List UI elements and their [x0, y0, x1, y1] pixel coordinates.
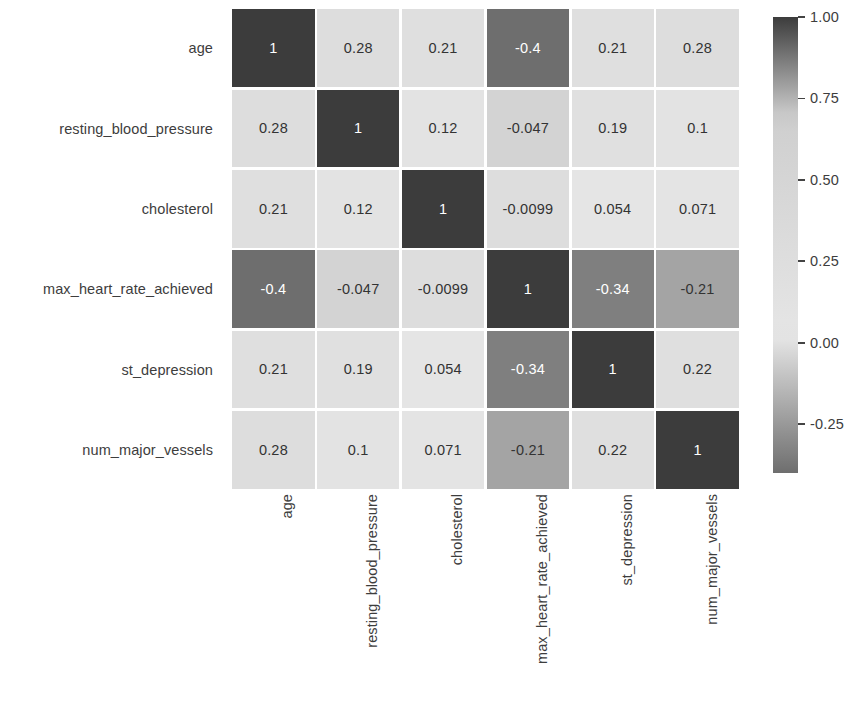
heatmap-cell: -0.4 — [487, 9, 569, 87]
heatmap-cell-value: 1 — [609, 362, 617, 377]
heatmap-cell: -0.0099 — [487, 170, 569, 248]
heatmap-cell-value: 0.21 — [259, 362, 288, 377]
colorbar-tick-label: 0.25 — [810, 253, 839, 269]
x-axis-tick-label: st_depression — [619, 494, 635, 586]
heatmap-cell: 0.19 — [572, 90, 654, 168]
heatmap-cell: 0.071 — [656, 170, 738, 248]
heatmap-cell-value: 1 — [269, 41, 277, 56]
x-axis-tick-label: max_heart_rate_achieved — [534, 494, 550, 664]
x-axis-tick-label-text: num_major_vessels — [704, 494, 720, 625]
heatmap-cell-value: 0.19 — [344, 362, 373, 377]
heatmap-cell: 0.19 — [317, 331, 399, 409]
x-axis-tick-label-text: max_heart_rate_achieved — [534, 494, 550, 664]
y-axis-tick-labels: ageresting_blood_pressurecholesterolmax_… — [0, 8, 222, 490]
heatmap-cell: 0.28 — [656, 9, 738, 87]
heatmap-cell: 0.071 — [402, 411, 484, 489]
heatmap-cell-value: 1 — [693, 443, 701, 458]
heatmap-cell: 1 — [487, 250, 569, 328]
heatmap-cell-value: -0.34 — [511, 362, 545, 377]
heatmap-cell-value: 0.22 — [598, 443, 627, 458]
heatmap-cell: 1 — [656, 411, 738, 489]
y-axis-tick-label: st_depression — [0, 362, 222, 378]
heatmap-cell: 0.21 — [232, 331, 314, 409]
heatmap-cell: 0.21 — [402, 9, 484, 87]
heatmap-cell: 1 — [572, 331, 654, 409]
heatmap-cell-value: -0.21 — [511, 443, 545, 458]
heatmap-grid: 10.280.21-0.40.210.280.2810.12-0.0470.19… — [231, 8, 740, 490]
colorbar-tick-label: -0.25 — [810, 416, 844, 432]
colorbar-gradient — [773, 17, 798, 473]
x-axis-tick-label: num_major_vessels — [704, 494, 720, 625]
heatmap-cell-value: 0.28 — [683, 41, 712, 56]
colorbar-tick-mark — [798, 423, 805, 425]
x-axis-tick-label-text: cholesterol — [449, 494, 465, 565]
colorbar-tick-label: 0.75 — [810, 90, 839, 106]
heatmap-cell: 0.21 — [232, 170, 314, 248]
colorbar-tick-mark — [798, 98, 805, 100]
heatmap-cell-value: 0.1 — [687, 121, 708, 136]
x-axis-tick-label: cholesterol — [449, 494, 465, 565]
heatmap-cell-value: 0.19 — [598, 121, 627, 136]
heatmap-cell: 0.21 — [572, 9, 654, 87]
y-axis-tick-label: num_major_vessels — [0, 442, 222, 458]
heatmap-cell: 0.1 — [656, 90, 738, 168]
heatmap-cell: -0.4 — [232, 250, 314, 328]
x-axis-tick-labels: ageresting_blood_pressurecholesterolmax_… — [231, 494, 740, 706]
colorbar-tick-mark — [798, 342, 805, 344]
heatmap-cell-value: 0.054 — [594, 202, 631, 217]
heatmap-cell-value: 0.21 — [598, 41, 627, 56]
colorbar-tick-label: 0.50 — [810, 171, 839, 187]
heatmap-cell-value: -0.34 — [596, 282, 630, 297]
heatmap-cell: 1 — [232, 9, 314, 87]
heatmap-cell: 0.22 — [656, 331, 738, 409]
heatmap-cell: -0.34 — [487, 331, 569, 409]
heatmap-cell-value: -0.0099 — [418, 282, 469, 297]
heatmap-cell-value: 0.1 — [348, 443, 369, 458]
y-axis-tick-label: max_heart_rate_achieved — [0, 281, 222, 297]
heatmap-cell: -0.047 — [487, 90, 569, 168]
y-axis-tick-label: age — [0, 40, 222, 56]
x-axis-tick-label: age — [279, 494, 295, 519]
heatmap-cell: 0.28 — [317, 9, 399, 87]
heatmap-cell-value: -0.4 — [515, 41, 541, 56]
heatmap-cell-value: 1 — [439, 202, 447, 217]
heatmap-cell: 0.28 — [232, 90, 314, 168]
colorbar: 1.000.750.500.250.00-0.25 — [773, 17, 798, 473]
heatmap-cell: 0.054 — [572, 170, 654, 248]
heatmap-cell: 0.12 — [317, 170, 399, 248]
colorbar-tick-mark — [798, 260, 805, 262]
heatmap-cell: 1 — [402, 170, 484, 248]
heatmap-cell: 0.1 — [317, 411, 399, 489]
y-axis-tick-label: cholesterol — [0, 201, 222, 217]
colorbar-tick-label: 0.00 — [810, 334, 839, 350]
heatmap-cell: -0.34 — [572, 250, 654, 328]
heatmap-cell-value: 0.28 — [259, 443, 288, 458]
x-axis-tick-label: resting_blood_pressure — [364, 494, 380, 648]
colorbar-tick-label: 1.00 — [810, 9, 839, 25]
heatmap-cell-value: -0.0099 — [503, 202, 554, 217]
heatmap-cell: 0.12 — [402, 90, 484, 168]
heatmap-cell-value: 0.071 — [679, 202, 716, 217]
heatmap-cell-value: -0.21 — [681, 282, 715, 297]
heatmap-cell: 0.22 — [572, 411, 654, 489]
heatmap-cell-value: 0.28 — [344, 41, 373, 56]
heatmap-cell-value: -0.047 — [337, 282, 379, 297]
heatmap-cell-value: 0.28 — [259, 121, 288, 136]
colorbar-tick-mark — [798, 16, 805, 18]
heatmap-cell: -0.21 — [656, 250, 738, 328]
heatmap-cell-value: 0.071 — [424, 443, 461, 458]
x-axis-tick-label-text: resting_blood_pressure — [364, 494, 380, 648]
heatmap-cell-value: 0.22 — [683, 362, 712, 377]
heatmap-cell-value: 0.12 — [429, 121, 458, 136]
heatmap-cell: -0.21 — [487, 411, 569, 489]
x-axis-tick-label-text: st_depression — [619, 494, 635, 586]
y-axis-tick-label: resting_blood_pressure — [0, 121, 222, 137]
heatmap-cell-value: 1 — [354, 121, 362, 136]
heatmap-cell-value: 0.21 — [259, 202, 288, 217]
correlation-heatmap-figure: ageresting_blood_pressurecholesterolmax_… — [0, 0, 853, 706]
heatmap-cell: -0.0099 — [402, 250, 484, 328]
heatmap-cell-value: 1 — [524, 282, 532, 297]
heatmap-cell: 1 — [317, 90, 399, 168]
heatmap-cell-value: 0.21 — [429, 41, 458, 56]
colorbar-tick-mark — [798, 179, 805, 181]
